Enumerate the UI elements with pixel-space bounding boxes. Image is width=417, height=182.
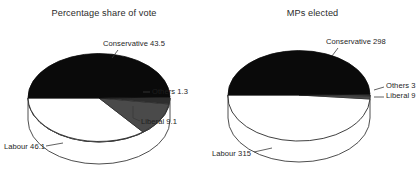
pie-label-others-right: Others 3 xyxy=(386,82,416,91)
pie-label-conservative-left: Conservative 43.5 xyxy=(103,40,165,49)
pie-label-liberal-right: Liberal 9 xyxy=(386,92,416,101)
pie-slice-conservative-left xyxy=(28,53,170,98)
pie-label-labour-left: Labour 46.1 xyxy=(4,143,45,152)
pie-chart-figure: Percentage share of vote Conservative 43… xyxy=(0,0,417,182)
pie-label-conservative-right: Conservative 298 xyxy=(326,38,386,47)
chart-panel-percentage-share-of-vote: Percentage share of vote Conservative 43… xyxy=(0,0,208,182)
pie-label-liberal-left: Liberal 9.1 xyxy=(141,118,177,127)
leader-line-others-right xyxy=(374,87,384,90)
chart-panel-mps-elected: MPs elected Conservative 298 Others 3 Li… xyxy=(208,0,417,182)
leader-line-conservative-right xyxy=(332,48,338,56)
pie-label-labour-right: Labour 315 xyxy=(212,150,251,159)
pie-label-others-left: Others 1.3 xyxy=(152,88,188,97)
pie-slice-conservative-right xyxy=(228,51,370,95)
